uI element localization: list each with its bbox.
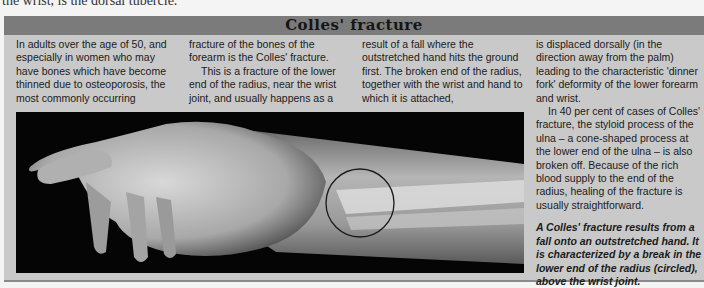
xray-hand-forearm-illustration — [16, 112, 524, 273]
xray-image — [16, 112, 524, 273]
colles-fracture-panel: Colles' fracture In adults over the age … — [4, 16, 704, 282]
panel-title: Colles' fracture — [285, 16, 423, 34]
paragraph: In adults over the age of 50, and especi… — [16, 38, 176, 105]
paragraph: In 40 per cent of cases of Colles' fract… — [536, 105, 702, 212]
paragraph: This is a fracture of the lower end of t… — [189, 65, 349, 105]
text-column-2: fracture of the bones of the forearm is … — [189, 38, 349, 105]
title-bar: Colles' fracture — [4, 16, 704, 35]
top-caption: the wrist, is the dorsal tubercle. — [2, 0, 177, 9]
text-column-3: result of a fall where the outstretched … — [362, 38, 524, 105]
paragraph: fracture of the bones of the forearm is … — [189, 38, 349, 65]
text-column-1: In adults over the age of 50, and especi… — [16, 38, 176, 105]
paragraph: is displaced dorsally (in the direction … — [536, 38, 702, 105]
text-column-4: is displaced dorsally (in the direction … — [536, 38, 702, 288]
image-caption: A Colles' fracture results from a fall o… — [536, 221, 702, 288]
paragraph: result of a fall where the outstretched … — [362, 38, 524, 105]
